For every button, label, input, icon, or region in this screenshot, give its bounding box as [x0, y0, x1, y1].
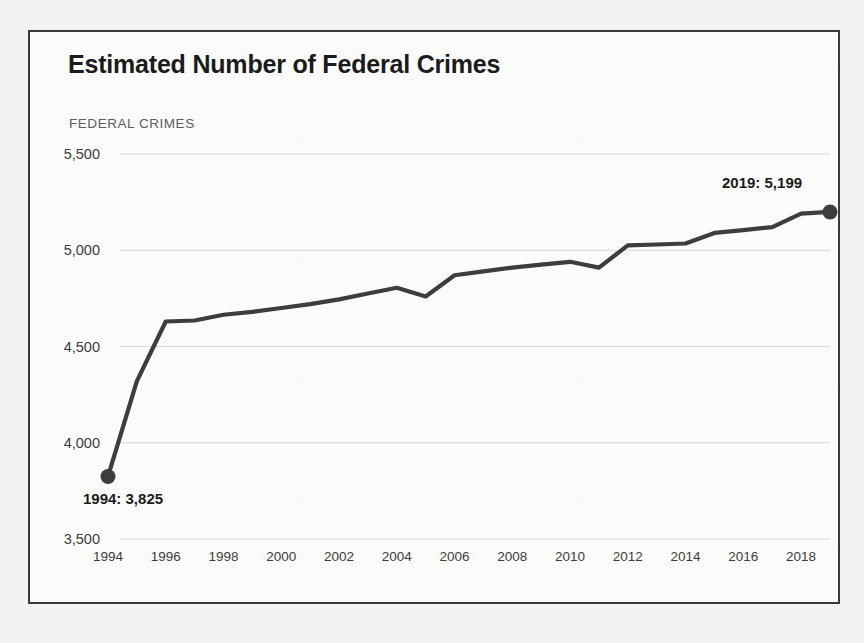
start-point-label: 1994: 3,825 — [83, 490, 163, 507]
chart-svg — [30, 32, 842, 606]
x-tick-label: 2002 — [324, 549, 354, 564]
x-tick-label: 2018 — [786, 549, 816, 564]
y-tick-label: 4,000 — [36, 435, 100, 451]
x-tick-label: 2010 — [555, 549, 585, 564]
y-tick-label: 4,500 — [36, 339, 100, 355]
y-tick-label: 3,500 — [36, 531, 100, 547]
x-tick-label: 2008 — [497, 549, 527, 564]
x-tick-label: 1998 — [208, 549, 238, 564]
x-tick-label: 2006 — [440, 549, 470, 564]
x-tick-label: 2004 — [382, 549, 412, 564]
x-tick-label: 2012 — [613, 549, 643, 564]
plot-area: 3,5004,0004,5005,0005,500 19941996199820… — [30, 32, 842, 606]
data-line — [108, 212, 830, 477]
x-tick-label: 2014 — [671, 549, 701, 564]
chart-figure-box: Estimated Number of Federal Crimes FEDER… — [28, 30, 840, 604]
x-tick-label: 1994 — [93, 549, 123, 564]
endpoint-markers — [101, 204, 838, 483]
end-point-label: 2019: 5,199 — [722, 174, 802, 191]
data-line-group — [108, 212, 830, 477]
x-tick-label: 1996 — [151, 549, 181, 564]
x-tick-label: 2016 — [728, 549, 758, 564]
gridlines — [120, 154, 830, 539]
y-tick-label: 5,000 — [36, 242, 100, 258]
y-tick-label: 5,500 — [36, 146, 100, 162]
x-tick-label: 2000 — [266, 549, 296, 564]
